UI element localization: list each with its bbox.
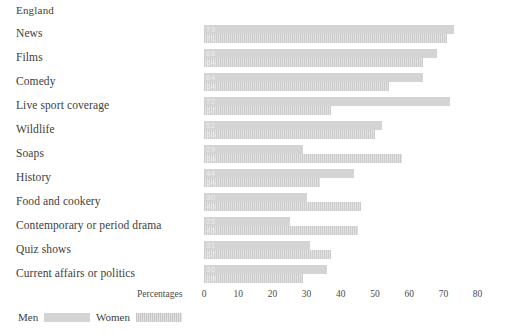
x-tick-label: 20	[268, 289, 278, 299]
category-label: Live sport coverage	[16, 99, 109, 111]
plot-area: News7371Films6864Comedy6454Live sport co…	[0, 24, 513, 288]
chart-row: Current affairs or politics3629	[0, 264, 513, 288]
bar-group: 6454	[204, 73, 504, 95]
bar-women: 37	[204, 250, 331, 259]
bar-men: 25	[204, 217, 290, 226]
bar-group: 3629	[204, 265, 504, 287]
x-tick-label: 40	[336, 289, 346, 299]
bar-men: 72	[204, 97, 450, 106]
bar-women: 64	[204, 58, 423, 67]
legend-label-men: Men	[18, 311, 38, 323]
bar-women: 34	[204, 178, 320, 187]
bar-men: 36	[204, 265, 327, 274]
chart-row: Contemporary or period drama2545	[0, 216, 513, 240]
bar-women: 45	[204, 226, 358, 235]
bar-women: 37	[204, 106, 331, 115]
chart-row: Quiz shows3137	[0, 240, 513, 264]
category-label: Wildlife	[16, 123, 55, 135]
bar-group: 3137	[204, 241, 504, 263]
bar-group: 5250	[204, 121, 504, 143]
bar-value-label: 29	[206, 274, 215, 284]
bar-chart: England News7371Films6864Comedy6454Live …	[0, 0, 513, 334]
bar-value-label: 58	[206, 154, 215, 164]
bar-men: 68	[204, 49, 437, 58]
bar-value-label: 71	[206, 34, 215, 44]
bar-value-label: 50	[206, 130, 215, 140]
chart-row: News7371	[0, 24, 513, 48]
bar-men: 29	[204, 145, 303, 154]
bar-women: 54	[204, 82, 389, 91]
x-tick-label: 80	[473, 289, 483, 299]
chart-legend: Men Women	[0, 310, 513, 328]
bar-value-label: 64	[206, 58, 215, 68]
category-label: Current affairs or politics	[16, 267, 135, 279]
bar-value-label: 37	[206, 250, 215, 260]
x-tick-label: 10	[233, 289, 243, 299]
category-label: Soaps	[16, 147, 44, 159]
chart-row: Live sport coverage7237	[0, 96, 513, 120]
category-label: Food and cookery	[16, 195, 101, 207]
bar-women: 58	[204, 154, 402, 163]
bar-value-label: 46	[206, 202, 215, 212]
x-tick-label: 0	[202, 289, 207, 299]
bar-value-label: 45	[206, 226, 215, 236]
legend-swatch-men	[44, 313, 90, 322]
bar-men: 44	[204, 169, 354, 178]
category-label: Films	[16, 51, 43, 63]
legend-item-men: Men	[18, 310, 90, 324]
bar-group: 4434	[204, 169, 504, 191]
legend-swatch-women	[136, 313, 182, 322]
bar-men: 64	[204, 73, 423, 82]
bar-women: 71	[204, 34, 447, 43]
chart-title: England	[16, 4, 54, 16]
bar-men: 52	[204, 121, 382, 130]
bar-group: 6864	[204, 49, 504, 71]
bar-value-label: 54	[206, 82, 215, 92]
bar-group: 7371	[204, 25, 504, 47]
chart-row: Soaps2958	[0, 144, 513, 168]
bar-women: 46	[204, 202, 361, 211]
x-tick-label: 60	[404, 289, 414, 299]
bar-men: 31	[204, 241, 310, 250]
bar-value-label: 34	[206, 178, 215, 188]
x-axis-title: Percentages	[137, 289, 182, 299]
bar-group: 7237	[204, 97, 504, 119]
chart-row: History4434	[0, 168, 513, 192]
category-label: Comedy	[16, 75, 56, 87]
x-axis: Percentages 01020304050607080	[0, 288, 513, 304]
bar-group: 2545	[204, 217, 504, 239]
bar-women: 50	[204, 130, 375, 139]
category-label: News	[16, 27, 43, 39]
bar-value-label: 37	[206, 106, 215, 116]
x-tick-label: 70	[439, 289, 449, 299]
chart-row: Films6864	[0, 48, 513, 72]
chart-row: Food and cookery3046	[0, 192, 513, 216]
category-label: Quiz shows	[16, 243, 71, 255]
bar-group: 2958	[204, 145, 504, 167]
bar-group: 3046	[204, 193, 504, 215]
x-tick-label: 30	[302, 289, 312, 299]
chart-row: Comedy6454	[0, 72, 513, 96]
bar-men: 30	[204, 193, 307, 202]
category-label: History	[16, 171, 51, 183]
chart-row: Wildlife5250	[0, 120, 513, 144]
legend-item-women: Women	[96, 310, 182, 324]
bar-men: 73	[204, 25, 454, 34]
category-label: Contemporary or period drama	[16, 219, 162, 231]
legend-label-women: Women	[96, 311, 130, 323]
bar-women: 29	[204, 274, 303, 283]
x-tick-label: 50	[370, 289, 380, 299]
